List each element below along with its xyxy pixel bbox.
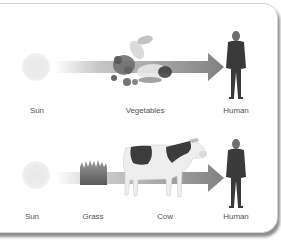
chain-2-grass-label: Grass [83, 212, 104, 221]
human-figure-icon [0, 0, 281, 240]
chain-2-sun-label: Sun [25, 212, 39, 221]
chain-2-cow-label: Cow [157, 212, 173, 221]
food-chain-diagram: Sun Vegetables Human [0, 0, 281, 240]
chain-2-human-label: Human [223, 212, 248, 221]
